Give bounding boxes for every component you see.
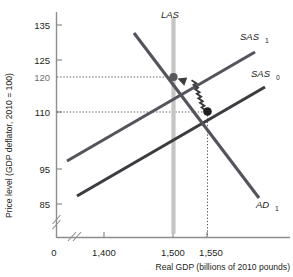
x-tick-label-1550: 1,550 bbox=[199, 247, 223, 258]
y-tick-label-125: 125 bbox=[34, 55, 50, 66]
y-tick-label-135: 135 bbox=[34, 20, 50, 31]
curve-label-sas1-subscript: 1 bbox=[265, 37, 269, 44]
curve-label-sas0-subscript: 0 bbox=[276, 74, 280, 81]
point-initial-equilibrium[interactable] bbox=[203, 107, 212, 116]
curve-label-sas0: SAS bbox=[251, 68, 271, 79]
curve-label-ad1: AD bbox=[255, 199, 269, 210]
ad-as-chart-svg: 135 125 120 110 95 85 0 1,400 1,500 1,55… bbox=[0, 0, 293, 277]
x-axis-ticks bbox=[104, 232, 207, 238]
y-tick-label-120: 120 bbox=[34, 72, 50, 83]
y-axis-title: Price level (GDP deflator, 2010 = 100) bbox=[4, 73, 14, 218]
curve-label-sas1-group: SAS 1 bbox=[240, 31, 269, 44]
curve-label-ad1-group: AD 1 bbox=[255, 199, 279, 212]
arrow-head-icon bbox=[178, 78, 188, 86]
chart-canvas: 135 125 120 110 95 85 0 1,400 1,500 1,55… bbox=[0, 0, 293, 277]
x-axis-break-mark bbox=[68, 232, 81, 241]
y-tick-label-95: 95 bbox=[39, 164, 50, 175]
curve-ad1[interactable] bbox=[134, 33, 259, 198]
curve-label-las: LAS bbox=[161, 9, 180, 20]
curve-label-sas1: SAS bbox=[240, 31, 260, 42]
curve-sas0[interactable] bbox=[77, 87, 265, 196]
y-tick-label-110: 110 bbox=[35, 107, 50, 118]
x-tick-label-1500: 1,500 bbox=[161, 247, 185, 258]
point-new-equilibrium[interactable] bbox=[169, 73, 177, 81]
y-axis-ticks bbox=[57, 25, 63, 204]
x-tick-label-1400: 1,400 bbox=[92, 247, 116, 258]
y-tick-label-85: 85 bbox=[39, 199, 50, 210]
x-tick-label-0: 0 bbox=[51, 247, 56, 258]
curve-label-sas0-group: SAS 0 bbox=[251, 68, 280, 81]
x-axis-title: Real GDP (billions of 2010 pounds) bbox=[155, 262, 290, 272]
curve-label-ad1-subscript: 1 bbox=[275, 205, 279, 212]
